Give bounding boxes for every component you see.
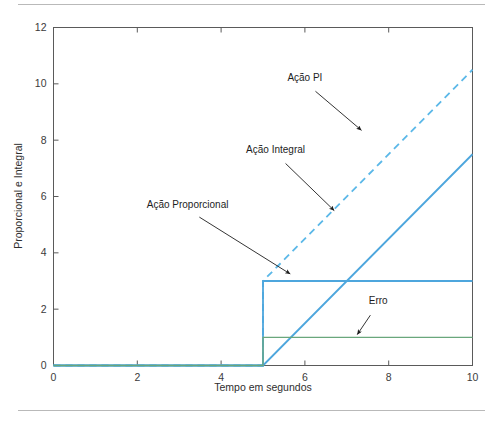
series-line bbox=[54, 337, 473, 365]
annotation-label: Ação Proporcional bbox=[147, 199, 229, 210]
annotation-label: Ação Integral bbox=[246, 144, 305, 155]
x-tick-label: 10 bbox=[467, 371, 479, 383]
annotation-label: Erro bbox=[369, 295, 388, 306]
data-series-layer bbox=[54, 70, 473, 366]
annotation-label: Ação PI bbox=[287, 72, 322, 83]
annotation-arrow bbox=[357, 315, 370, 334]
y-tick-label: 10 bbox=[35, 77, 47, 89]
annotation-arrow bbox=[315, 91, 361, 130]
x-axis-title: Tempo em segundos bbox=[214, 381, 311, 393]
y-axis-tick-labels: 024681012 bbox=[35, 21, 47, 371]
y-tick-label: 8 bbox=[41, 134, 47, 146]
x-tick-label: 0 bbox=[51, 371, 57, 383]
figure-page: 024681012 0246810 Ação PIAção IntegralAç… bbox=[0, 0, 503, 426]
annotation-arrow bbox=[286, 163, 335, 210]
y-tick-label: 12 bbox=[35, 21, 47, 33]
annotation-arrow bbox=[199, 217, 290, 274]
y-axis-ticks bbox=[54, 28, 59, 366]
annotation-layer: Ação PIAção IntegralAção ProporcionalErr… bbox=[147, 72, 388, 335]
y-axis-title: Proporcional e Integral bbox=[12, 143, 24, 249]
x-tick-label: 2 bbox=[134, 371, 140, 383]
y-tick-label: 2 bbox=[41, 303, 47, 315]
x-tick-label: 8 bbox=[386, 371, 392, 383]
chart-canvas: 024681012 0246810 Ação PIAção IntegralAç… bbox=[0, 0, 503, 426]
y-tick-label: 0 bbox=[41, 359, 47, 371]
y-tick-label: 4 bbox=[41, 246, 47, 258]
y-tick-label: 6 bbox=[41, 190, 47, 202]
